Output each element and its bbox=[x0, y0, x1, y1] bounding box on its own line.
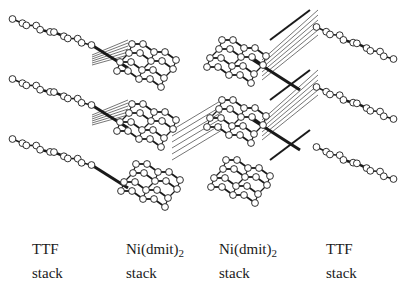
label-ttf-right: TTF bbox=[326, 242, 353, 257]
label-ttf-left: TTF bbox=[32, 242, 59, 257]
label-nidmit-right: Ni(dmit)2 bbox=[219, 242, 277, 259]
label-nidmit-left-stack: stack bbox=[126, 266, 157, 281]
label-ttf-left-stack: stack bbox=[32, 266, 63, 281]
label-ttf-right-stack: stack bbox=[326, 266, 357, 281]
label-nidmit-right-stack: stack bbox=[219, 266, 250, 281]
crystal-structure-diagram bbox=[0, 0, 404, 230]
label-nidmit-left: Ni(dmit)2 bbox=[126, 242, 184, 259]
